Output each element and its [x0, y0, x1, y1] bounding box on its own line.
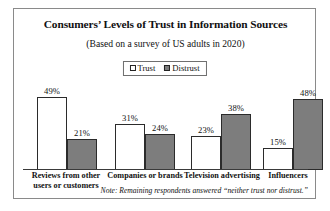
bar-value-label: 24% — [152, 123, 168, 133]
chart-legend: Trust Distrust — [122, 61, 206, 76]
bar-wrapper: 48% — [293, 81, 323, 170]
bar-trust[interactable]: 31% — [115, 124, 145, 170]
bar-value-label: 48% — [300, 88, 316, 98]
x-axis-line — [23, 169, 308, 170]
bar-group: 31%24% — [115, 81, 175, 170]
bar-value-label: 21% — [74, 128, 90, 138]
legend-label-distrust: Distrust — [172, 63, 199, 73]
bar-value-label: 23% — [198, 125, 214, 135]
chart-title: Consumers’ Levels of Trust in Informatio… — [14, 18, 317, 30]
bar-trust[interactable]: 49% — [37, 97, 67, 170]
bar-wrapper: 38% — [221, 81, 251, 170]
bar-group: 23%38% — [191, 81, 251, 170]
bar-wrapper: 15% — [263, 81, 293, 170]
chart-subtitle: (Based on a survey of US adults in 2020) — [14, 38, 317, 49]
bar-wrapper: 24% — [145, 81, 175, 170]
bar-wrapper: 21% — [67, 81, 97, 170]
chart-frame: Consumers’ Levels of Trust in Informatio… — [13, 8, 316, 199]
bar-group: 49%21% — [37, 81, 97, 170]
bar-distrust[interactable]: 24% — [145, 134, 175, 170]
legend-label-trust: Trust — [137, 63, 155, 73]
bar-value-label: 31% — [122, 113, 138, 123]
legend-swatch-trust-icon — [129, 65, 135, 71]
legend-item-trust: Trust — [129, 63, 155, 73]
bar-group: 15%48% — [263, 81, 323, 170]
bar-distrust[interactable]: 38% — [221, 114, 251, 170]
bar-value-label: 15% — [270, 137, 286, 147]
bar-distrust[interactable]: 21% — [67, 139, 97, 170]
bar-value-label: 38% — [228, 103, 244, 113]
bar-wrapper: 31% — [115, 81, 145, 170]
bar-distrust[interactable]: 48% — [293, 99, 323, 170]
bar-wrapper: 49% — [37, 81, 67, 170]
bar-wrapper: 23% — [191, 81, 221, 170]
legend-swatch-distrust-icon — [164, 65, 170, 71]
x-axis-label: Influencers — [253, 171, 323, 181]
bar-trust[interactable]: 15% — [263, 148, 293, 170]
bar-value-label: 49% — [44, 86, 60, 96]
bar-trust[interactable]: 23% — [191, 136, 221, 170]
plot-area: 49%21%31%24%23%38%15%48% — [23, 81, 308, 170]
legend-item-distrust: Distrust — [164, 63, 199, 73]
